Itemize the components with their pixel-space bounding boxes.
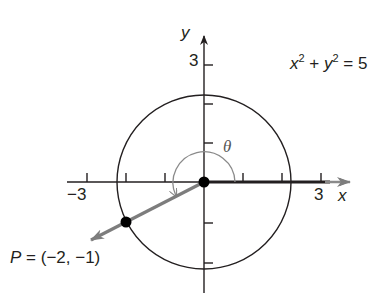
origin-point xyxy=(199,177,210,188)
point-p-label: P = (−2, −1) xyxy=(10,249,100,266)
point-p xyxy=(121,217,132,228)
x-axis-label: x xyxy=(338,187,347,204)
y-axis-label: y xyxy=(181,24,190,41)
x-tick-label-neg3: −3 xyxy=(67,186,86,203)
x-tick-label-3: 3 xyxy=(314,186,323,203)
angle-label-theta: θ xyxy=(223,138,231,155)
y-tick-label-3: 3 xyxy=(189,52,198,69)
terminal-ray xyxy=(91,182,204,240)
circle-equation: x2 + y2 = 5 xyxy=(290,53,367,72)
